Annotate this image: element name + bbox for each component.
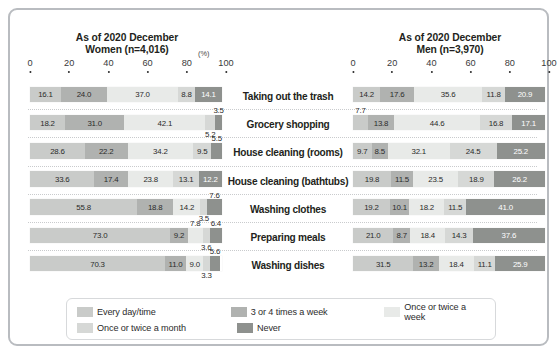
segment-value-label: 6.4 xyxy=(206,219,226,228)
bar-segment: 23.5 xyxy=(413,171,458,187)
segment-value-label: 14.3 xyxy=(445,231,472,240)
segment-value-label: 55.8 xyxy=(30,203,137,212)
axis-tick-label: 0 xyxy=(350,58,355,69)
axis-tick: 20 xyxy=(387,58,397,73)
segment-value-label: 25.2 xyxy=(497,146,545,155)
category-label: Washing clothes xyxy=(226,203,350,214)
men-bar: 31.513.218.411.125.9 xyxy=(353,256,545,272)
stacked-bar: 7.713.844.616.817.1 xyxy=(353,115,545,131)
stacked-bar: 16.124.037.08.814.1 xyxy=(30,87,222,103)
segment-value-label: 44.6 xyxy=(394,118,480,127)
stacked-bar: 55.818.814.23.57.6 xyxy=(30,199,222,215)
legend-swatch-3-4-week xyxy=(231,307,247,317)
axis-tick: 40 xyxy=(426,58,436,73)
chart-row: 55.818.814.23.57.6Washing clothes19.210.… xyxy=(10,195,551,223)
segment-value-label: 9.7 xyxy=(353,146,372,155)
axis-tick-label: 60 xyxy=(142,58,152,69)
axis-tick-dot xyxy=(29,71,31,73)
segment-value-label: 13.2 xyxy=(413,259,438,268)
bar-segment: 17.1 xyxy=(512,115,545,131)
men-title-line2: Men (n=3,970) xyxy=(357,44,543,56)
category-label: Preparing meals xyxy=(226,232,350,243)
bar-segment: 9.2 xyxy=(170,228,188,244)
men-bar: 9.78.532.124.525.2 xyxy=(353,143,545,159)
axis-tick-label: 40 xyxy=(103,58,113,69)
bar-segment: 11.0 xyxy=(165,256,186,272)
men-bar: 19.210.118.211.541.0 xyxy=(353,199,545,215)
stacked-bar: 28.622.234.29.55.5 xyxy=(30,143,222,159)
chart-row: 73.09.27.83.66.4Preparing meals21.08.718… xyxy=(10,223,551,251)
women-axis-unit: (%) xyxy=(198,49,210,58)
segment-value-label: 9.2 xyxy=(170,231,188,240)
legend-swatch-never xyxy=(237,323,253,333)
axis-tick-label: 100 xyxy=(541,58,556,69)
segment-value-label: 9.0 xyxy=(186,259,203,268)
category-label: House cleaning (rooms) xyxy=(226,147,350,158)
bar-segment: 70.3 xyxy=(30,256,165,272)
women-bar: 73.09.27.83.66.4 xyxy=(30,228,222,244)
bar-segment: 18.2 xyxy=(409,199,444,215)
segment-value-label: 18.2 xyxy=(30,118,65,127)
men-bar: 21.08.718.414.337.6 xyxy=(353,228,545,244)
legend-item-never: Never xyxy=(237,323,397,333)
axis-tick-dot xyxy=(509,71,511,73)
segment-value-label: 20.9 xyxy=(505,90,545,99)
segment-value-label: 18.2 xyxy=(409,203,444,212)
stacked-bar: 33.617.423.813.112.2 xyxy=(30,171,222,187)
bar-segment: 37.6 xyxy=(473,228,545,244)
women-title-line1: As of 2020 December xyxy=(34,32,220,44)
segment-value-label: 3.3 xyxy=(197,271,217,280)
bar-segment: 23.8 xyxy=(128,171,174,187)
bar-segment: 25.9 xyxy=(495,256,545,272)
bar-segment: 7.8 xyxy=(188,228,203,244)
bar-segment: 9.0 xyxy=(186,256,203,272)
segment-value-label: 11.8 xyxy=(482,90,505,99)
axis-tick: 40 xyxy=(103,58,113,73)
segment-value-label: 18.4 xyxy=(410,231,445,240)
bar-segment: 11.5 xyxy=(444,199,466,215)
segment-value-label: 31.5 xyxy=(353,259,413,268)
axis-tick-dot xyxy=(470,71,472,73)
bar-segment: 8.7 xyxy=(393,228,410,244)
segment-value-label: 8.7 xyxy=(393,231,410,240)
segment-value-label: 18.4 xyxy=(439,259,474,268)
bar-segment: 11.1 xyxy=(474,256,495,272)
segment-value-label: 24.0 xyxy=(61,90,107,99)
bar-segment: 31.0 xyxy=(65,115,125,131)
chart-row: 18.231.042.15.23.5Grocery shopping7.713.… xyxy=(10,110,551,138)
bar-segment: 5.2 xyxy=(205,115,215,131)
women-bar: 33.617.423.813.112.2 xyxy=(30,171,222,187)
axis-tick-dot xyxy=(225,71,227,73)
segment-value-label: 23.8 xyxy=(128,174,174,183)
chart-row: 28.622.234.29.55.5House cleaning (rooms)… xyxy=(10,138,551,166)
segment-value-label: 7.6 xyxy=(204,191,224,200)
women-bar: 55.818.814.23.57.6 xyxy=(30,199,222,215)
bar-segment: 3.5 xyxy=(215,115,222,131)
bar-segment: 10.1 xyxy=(390,199,409,215)
segment-value-label: 16.1 xyxy=(30,90,61,99)
bar-segment: 44.6 xyxy=(394,115,480,131)
segment-value-label: 16.8 xyxy=(480,118,512,127)
women-bar: 28.622.234.29.55.5 xyxy=(30,143,222,159)
bar-segment: 14.2 xyxy=(173,199,200,215)
bar-segment: 31.5 xyxy=(353,256,413,272)
segment-value-label: 8.5 xyxy=(372,146,388,155)
bar-segment: 17.6 xyxy=(380,87,414,103)
segment-value-label: 5.6 xyxy=(205,247,225,256)
segment-value-label: 19.2 xyxy=(353,203,390,212)
segment-value-label: 13.8 xyxy=(368,118,394,127)
segment-value-label: 25.9 xyxy=(495,259,545,268)
bar-segment: 13.8 xyxy=(368,115,394,131)
legend-label-3-4-week: 3 or 4 times a week xyxy=(251,307,328,317)
segment-value-label: 14.1 xyxy=(195,90,222,99)
stacked-bar: 19.811.523.518.926.2 xyxy=(353,171,545,187)
axis-tick-dot xyxy=(186,71,188,73)
segment-value-label: 12.2 xyxy=(199,174,222,183)
bar-segment: 32.1 xyxy=(388,143,450,159)
segment-value-label: 37.0 xyxy=(107,90,178,99)
segment-value-label: 35.6 xyxy=(414,90,482,99)
axis-tick-dot xyxy=(352,71,354,73)
chart-row: 16.124.037.08.814.1Taking out the trash1… xyxy=(10,82,551,110)
segment-value-label: 5.5 xyxy=(207,134,227,143)
segment-value-label: 14.2 xyxy=(353,90,380,99)
